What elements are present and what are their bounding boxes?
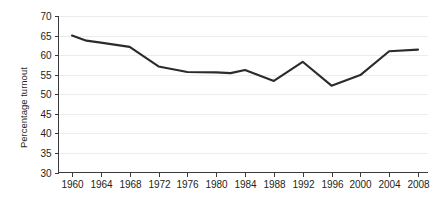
x-axis-tick-label: 1980: [205, 179, 228, 190]
x-axis-tick-label: 1996: [321, 179, 344, 190]
x-axis-tick-label: 2008: [407, 179, 430, 190]
x-axis-tick-label: 1964: [90, 179, 113, 190]
y-axis-tick-label: 45: [40, 109, 52, 120]
y-axis-tick-label: 30: [40, 168, 52, 179]
y-axis-tick-label: 55: [40, 70, 52, 81]
x-axis-tick-label: 1972: [148, 179, 171, 190]
y-axis-tick-label: 65: [40, 31, 52, 42]
y-axis-tick-label: 60: [40, 50, 52, 61]
x-axis-tick-label: 2000: [349, 179, 372, 190]
y-axis-tick-label: 35: [40, 148, 52, 159]
y-axis-tick-label: 40: [40, 128, 52, 139]
line-chart: 303540455055606570 196019641968197219761…: [0, 0, 444, 203]
y-axis-tick-label: 50: [40, 89, 52, 100]
y-axis-tick-label: 70: [40, 11, 52, 22]
y-axis-tick-labels: 303540455055606570: [40, 11, 52, 179]
x-axis-tick-label: 1976: [176, 179, 199, 190]
x-axis-tick-label: 1968: [119, 179, 142, 190]
y-axis-title: Percentage turnout: [18, 67, 29, 148]
x-axis-tick-label: 1992: [292, 179, 315, 190]
x-axis-tick-label: 1988: [263, 179, 286, 190]
x-axis-tick-label: 1960: [61, 179, 84, 190]
chart-canvas: 303540455055606570 196019641968197219761…: [0, 0, 444, 203]
x-axis-tick-label: 1984: [234, 179, 257, 190]
x-axis-tick-label: 2004: [378, 179, 401, 190]
